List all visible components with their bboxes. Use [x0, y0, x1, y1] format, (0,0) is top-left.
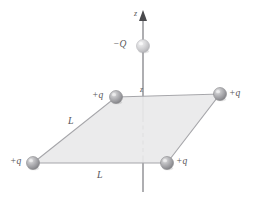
z-axis-label-at-plane: z	[140, 86, 143, 94]
charge-minus-Q-on-axis	[137, 40, 150, 54]
physics-diagram-canvas: z z L L −Q +q +q +q +q	[0, 0, 255, 204]
charge-plus-q-front-left	[27, 157, 40, 171]
charge-label-plus-q-front-left: +q	[10, 157, 21, 167]
side-length-label-bottom: L	[97, 170, 103, 180]
diagram-svg	[0, 0, 255, 204]
square-plane-L-by-L	[33, 94, 220, 163]
charge-plus-q-back-left	[110, 91, 123, 105]
charge-label-plus-q-back-left: +q	[92, 91, 103, 101]
charge-plus-q-back-right	[214, 88, 227, 102]
side-length-label-left: L	[68, 116, 74, 126]
charge-plus-q-front-right	[161, 157, 174, 171]
charge-label-plus-q-front-right: +q	[176, 157, 187, 167]
charge-label-minus-Q: −Q	[113, 40, 126, 50]
z-axis-label-top: z	[134, 10, 137, 18]
charge-label-plus-q-back-right: +q	[229, 89, 240, 99]
z-axis-arrowhead	[139, 10, 147, 21]
